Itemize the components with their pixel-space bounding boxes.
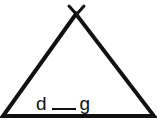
- last-letter: g: [80, 94, 91, 113]
- fill-in-word: d g: [36, 91, 90, 113]
- missing-letter-blank[interactable]: [52, 108, 76, 110]
- first-letter: d: [36, 94, 47, 113]
